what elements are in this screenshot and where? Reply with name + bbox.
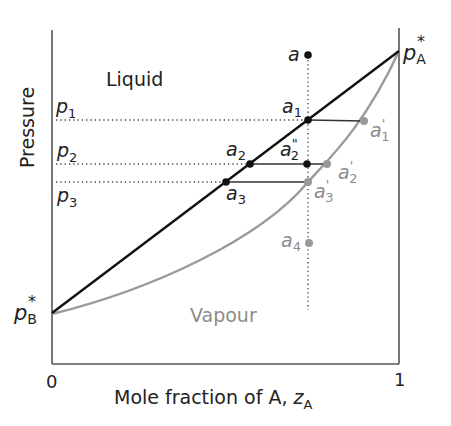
point-a [304, 51, 312, 59]
phase-diagram: Pressure Mole fraction of A, zA 0 1 Liqu… [0, 0, 451, 426]
point-a4 [305, 239, 313, 247]
point-a2 [246, 160, 254, 168]
p3-label: p3 [56, 184, 77, 210]
pB-star-label: pB* [13, 292, 37, 327]
label-a1: a1 [282, 95, 302, 120]
label-a1-prime: a'1 [370, 116, 390, 144]
x-axis-label: Mole fraction of A, zA [114, 386, 312, 412]
region-vapour-label: Vapour [190, 304, 257, 326]
pA-star-label: pA* [402, 32, 426, 67]
label-a2-double-prime: a"2 [280, 136, 299, 163]
label-a2: a2 [226, 138, 246, 163]
label-a4: a4 [281, 229, 301, 254]
point-a3-prime [304, 178, 312, 186]
point-a1 [304, 116, 312, 124]
label-a: a [288, 43, 300, 65]
label-a3: a3 [226, 182, 246, 207]
point-a2-prime [323, 160, 331, 168]
y-axis-label: Pressure [16, 87, 38, 168]
p2-label: p2 [56, 139, 77, 165]
point-a2-double-prime [303, 160, 311, 168]
label-a2-prime: a'2 [338, 158, 358, 186]
x-tick-1: 1 [394, 369, 405, 390]
label-a3-prime: a'3 [314, 177, 334, 205]
x-tick-0: 0 [46, 371, 57, 392]
tie-line-1 [308, 120, 364, 121]
region-liquid-label: Liquid [106, 68, 163, 90]
point-a1-prime [360, 117, 368, 125]
p1-label: p1 [55, 95, 76, 121]
